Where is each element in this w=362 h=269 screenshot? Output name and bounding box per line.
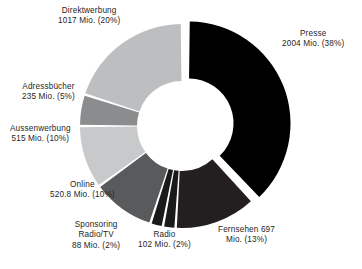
- slice-label-online-name: Online: [50, 180, 115, 190]
- slice-label-presse-name: Presse: [282, 29, 344, 39]
- slice-label-online-value: 520.8 Mio. (10%): [50, 190, 115, 200]
- slice-label-aussenwerbung: Aussenwerbung 515 Mio. (10%): [10, 124, 71, 145]
- slice-label-fernsehen-value: Mio. (13%): [218, 235, 275, 245]
- slice-label-sponsoring-name: Sponsoring: [72, 220, 120, 230]
- slice-label-direktwerbung: Direktwerbung 1017 Mio. (20%): [58, 6, 120, 27]
- slice-label-radio-name: Radio: [138, 230, 191, 240]
- slice-label-radio: Radio 102 Mio. (2%): [138, 230, 191, 251]
- slice-label-fernsehen: Fernsehen 697 Mio. (13%): [218, 225, 275, 246]
- slice-label-online: Online 520.8 Mio. (10%): [50, 180, 115, 201]
- slice-label-sponsoring: Sponsoring Radio/TV 88 Mio. (2%): [72, 220, 120, 251]
- slice-label-direktwerbung-value: 1017 Mio. (20%): [58, 16, 120, 26]
- slice-label-aussenwerbung-value: 515 Mio. (10%): [10, 134, 71, 144]
- slice-label-aussenwerbung-name: Aussenwerbung: [10, 124, 71, 134]
- slice-label-presse: Presse 2004 Mio. (38%): [282, 29, 344, 50]
- slice-label-radio-value: 102 Mio. (2%): [138, 240, 191, 250]
- slice-label-presse-value: 2004 Mio. (38%): [282, 39, 344, 49]
- slice-label-adressbuecher-name: Adressbücher: [22, 82, 75, 92]
- slice-label-sponsoring-value: 88 Mio. (2%): [72, 241, 120, 251]
- donut-chart-figure: Direktwerbung 1017 Mio. (20%) Presse 200…: [0, 0, 362, 269]
- slice-label-sponsoring-name2: Radio/TV: [72, 230, 120, 240]
- slice-label-fernsehen-name: Fernsehen 697: [218, 225, 275, 235]
- slice-label-adressbuecher-value: 235 Mio. (5%): [22, 92, 75, 102]
- donut-slice-direktwerbung[interactable]: [85, 24, 181, 112]
- slice-label-adressbuecher: Adressbücher 235 Mio. (5%): [22, 82, 75, 103]
- slice-label-direktwerbung-name: Direktwerbung: [58, 6, 120, 16]
